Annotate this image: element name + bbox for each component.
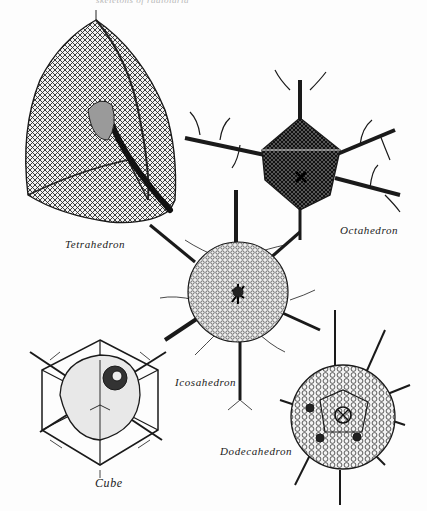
dodecahedron-label: Dodecahedron (220, 445, 292, 457)
tetrahedron-label: Tetrahedron (65, 238, 125, 250)
dodecahedron-figure (280, 310, 410, 505)
illustration-page: skeletons of radiolaria (0, 0, 427, 511)
tetrahedron-figure (26, 10, 176, 223)
cube-figure (30, 340, 166, 478)
octahedron-figure (185, 70, 400, 240)
octahedron-label: Octahedron (340, 224, 398, 236)
cube-label: Cube (95, 476, 123, 491)
icosahedron-label: Icosahedron (175, 376, 236, 388)
radiolaria-plate (0, 0, 427, 511)
